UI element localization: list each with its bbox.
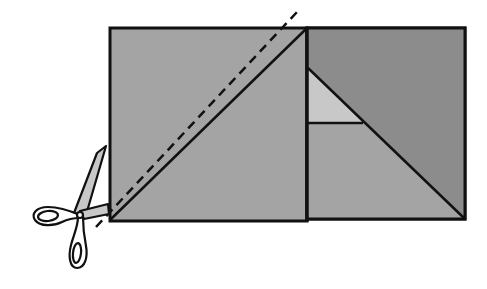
scissors-pivot <box>77 212 83 218</box>
scissors-icon <box>34 146 109 268</box>
quilt-cutting-diagram <box>0 0 487 289</box>
right-pieced-square <box>307 28 465 219</box>
left-fabric-square <box>110 28 307 221</box>
